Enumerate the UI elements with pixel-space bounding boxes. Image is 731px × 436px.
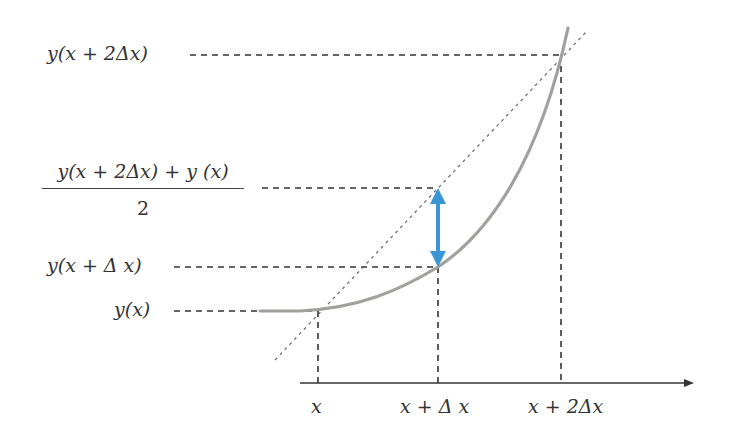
label-y-x1: y(x + Δ x) (47, 256, 142, 275)
label-x1: x + Δ x (400, 397, 469, 416)
gap-double-arrow (430, 188, 446, 267)
label-x0: x (311, 397, 322, 416)
convex-curve (260, 28, 568, 311)
label-y-mid-numerator: y(x + 2Δx) + y (x) (42, 160, 244, 189)
x-axis-arrowhead (684, 379, 694, 387)
label-y-mid-denominator: 2 (42, 189, 244, 219)
label-x2: x + 2Δx (528, 397, 603, 416)
label-y-midpoint: y(x + 2Δx) + y (x) 2 (42, 160, 244, 219)
label-y-x2: y(x + 2Δx) (47, 44, 148, 63)
label-y-x0: y(x) (114, 300, 150, 319)
